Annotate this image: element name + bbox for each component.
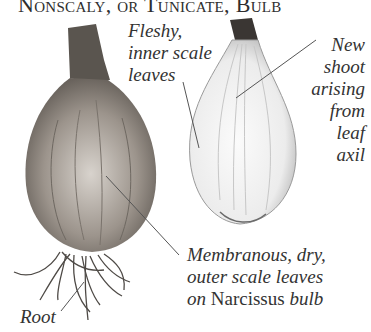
label-text: bulb [285, 288, 324, 309]
label-line: leaf [285, 122, 365, 144]
label-line: leaves [128, 64, 212, 86]
label-line: Fleshy, [128, 20, 212, 42]
label-line: outer scale leaves [187, 266, 326, 288]
label-line: Membranous, dry, [187, 244, 326, 266]
label-line: shoot [285, 56, 365, 78]
label-new-shoot: New shoot arising from leaf axil [285, 34, 365, 166]
root-leader-line [61, 282, 84, 311]
label-line: axil [285, 144, 365, 166]
label-membranous-outer-scale-leaves: Membranous, dry, outer scale leaves on N… [187, 244, 326, 310]
label-line: New [285, 34, 365, 56]
bulb-body [25, 78, 156, 252]
label-line: from [285, 100, 365, 122]
genus-name: Narcissus [211, 288, 285, 309]
label-line: on Narcissus bulb [187, 288, 326, 310]
label-fleshy-inner-scale-leaves: Fleshy, inner scale leaves [128, 20, 212, 86]
label-text: on [187, 288, 211, 309]
bulb-neck-tunic [68, 24, 110, 82]
label-root: Root [20, 306, 56, 328]
label-line: inner scale [128, 42, 212, 64]
label-line: arising [285, 78, 365, 100]
